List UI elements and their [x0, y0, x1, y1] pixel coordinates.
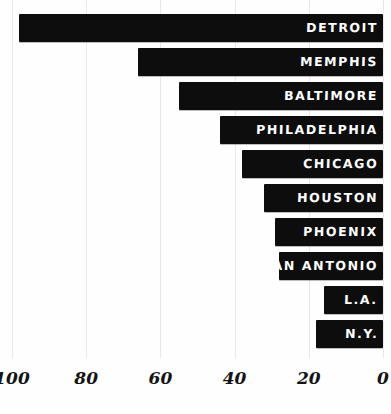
- bar-label: PHOENIX: [303, 226, 378, 239]
- bar-row[interactable]: L.A.: [0, 286, 391, 314]
- bar-detroit[interactable]: DETROIT: [19, 14, 383, 42]
- bar-philadelphia[interactable]: PHILADELPHIA: [220, 116, 383, 144]
- bar-label: SAN ANTONIO: [262, 260, 378, 273]
- bar-row[interactable]: CHICAGO: [0, 150, 391, 178]
- bar-label: PHILADELPHIA: [256, 124, 378, 137]
- bar-row[interactable]: DETROIT: [0, 14, 391, 42]
- bar-san-antonio[interactable]: SAN ANTONIO: [279, 252, 383, 280]
- plot-area: DETROITMEMPHISBALTIMOREPHILADELPHIACHICA…: [0, 0, 391, 358]
- bar-chicago[interactable]: CHICAGO: [242, 150, 383, 178]
- bar-label: MEMPHIS: [300, 56, 378, 69]
- bar-houston[interactable]: HOUSTON: [264, 184, 383, 212]
- bar-label: N.Y.: [344, 328, 378, 341]
- bar-row[interactable]: BALTIMORE: [0, 82, 391, 110]
- x-tick-label-0: 0: [377, 368, 389, 388]
- x-tick-label-40: 40: [223, 368, 247, 388]
- bar-phoenix[interactable]: PHOENIX: [275, 218, 383, 246]
- bar-row[interactable]: PHILADELPHIA: [0, 116, 391, 144]
- bar-label: L.A.: [344, 294, 378, 307]
- bar-label: HOUSTON: [297, 192, 378, 205]
- x-tick-label-60: 60: [149, 368, 173, 388]
- bar-chart: DETROITMEMPHISBALTIMOREPHILADELPHIACHICA…: [0, 0, 391, 414]
- bar-n-y[interactable]: N.Y.: [316, 320, 383, 348]
- bar-label: BALTIMORE: [284, 90, 378, 103]
- bar-row[interactable]: PHOENIX: [0, 218, 391, 246]
- bar-memphis[interactable]: MEMPHIS: [138, 48, 383, 76]
- bar-baltimore[interactable]: BALTIMORE: [179, 82, 383, 110]
- x-tick-label-100: 100: [0, 368, 30, 388]
- x-tick-label-80: 80: [74, 368, 98, 388]
- bar-row[interactable]: SAN ANTONIO: [0, 252, 391, 280]
- bar-row[interactable]: N.Y.: [0, 320, 391, 348]
- bar-label: CHICAGO: [303, 158, 379, 171]
- bar-row[interactable]: HOUSTON: [0, 184, 391, 212]
- bar-label: DETROIT: [306, 22, 378, 35]
- bar-row[interactable]: MEMPHIS: [0, 48, 391, 76]
- x-tick-label-20: 20: [297, 368, 321, 388]
- bar-l-a[interactable]: L.A.: [324, 286, 383, 314]
- x-axis: 100806040200: [0, 358, 391, 414]
